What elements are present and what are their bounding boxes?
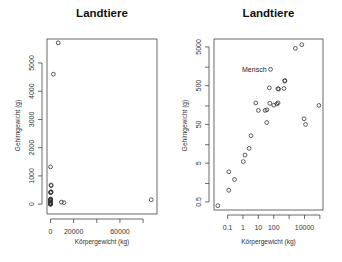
right-y-axis-label: Gehirngewicht (g) xyxy=(181,71,188,181)
data-point xyxy=(62,201,66,205)
data-point xyxy=(249,134,253,138)
y-tick-label: 5000 xyxy=(195,39,202,55)
y-tick-label: 2000 xyxy=(28,140,35,156)
data-point xyxy=(304,123,308,127)
data-point xyxy=(52,72,56,76)
data-point xyxy=(241,160,245,164)
plot-frame xyxy=(47,39,157,214)
data-point xyxy=(269,67,273,71)
right-scatter-plot-log: 0.1110100100000.55505005000Mensch xyxy=(171,0,342,262)
data-point xyxy=(243,153,247,157)
data-point xyxy=(256,109,260,113)
x-tick-label: 20000 xyxy=(64,228,84,235)
y-tick-label: 5 xyxy=(195,161,202,165)
data-point xyxy=(293,46,297,50)
x-tick-label: 0 xyxy=(49,228,53,235)
left-scatter-plot: 02000060000010002000300040005000 xyxy=(0,0,171,262)
point-annotation: Mensch xyxy=(242,66,267,73)
y-tick-label: 0.5 xyxy=(195,197,202,207)
data-point xyxy=(227,170,231,174)
data-point xyxy=(149,198,153,202)
data-point xyxy=(247,146,251,150)
data-point xyxy=(216,204,220,208)
data-point xyxy=(56,41,60,45)
data-point xyxy=(49,165,53,169)
plot-frame xyxy=(214,39,323,210)
data-point xyxy=(227,188,231,192)
data-point xyxy=(254,101,258,105)
data-point xyxy=(265,121,269,125)
x-tick-label: 1 xyxy=(241,224,245,231)
left-x-axis-label: Körpergewicht (kg) xyxy=(47,238,157,245)
x-tick-label: 0.1 xyxy=(223,224,233,231)
right-chart-panel: Landtiere 0.1110100100000.55505005000Men… xyxy=(171,0,342,262)
data-point xyxy=(282,87,286,91)
left-y-axis-label: Gehirngewicht (g) xyxy=(14,71,21,181)
data-point xyxy=(300,43,304,47)
x-tick-label: 10000 xyxy=(295,224,315,231)
data-point xyxy=(268,101,272,105)
data-point xyxy=(302,117,306,121)
y-tick-label: 4000 xyxy=(28,83,35,99)
left-chart-panel: Landtiere 020000600000100020003000400050… xyxy=(0,0,171,262)
data-point xyxy=(267,86,271,90)
y-tick-label: 1000 xyxy=(28,168,35,184)
y-tick-label: 50 xyxy=(195,120,202,128)
x-tick-label: 60000 xyxy=(110,228,130,235)
y-tick-label: 3000 xyxy=(28,112,35,128)
data-point xyxy=(317,104,321,108)
data-point xyxy=(233,178,237,182)
y-tick-label: 5000 xyxy=(28,55,35,71)
y-tick-label: 500 xyxy=(195,80,202,92)
x-tick-label: 100 xyxy=(268,224,280,231)
x-tick-label: 10 xyxy=(254,224,262,231)
right-x-axis-label: Körpergewicht (kg) xyxy=(214,238,323,245)
y-tick-label: 0 xyxy=(28,202,35,206)
